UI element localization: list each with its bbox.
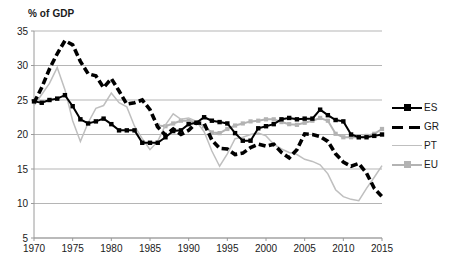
legend-label-eu: EU bbox=[424, 160, 438, 170]
legend-key-eu-icon bbox=[392, 158, 422, 172]
legend-key-pt-icon bbox=[392, 139, 422, 153]
plot-area: 5101520253035 19701975198019851990199520… bbox=[0, 0, 454, 269]
svg-text:5: 5 bbox=[22, 233, 28, 244]
legend-item-pt: PT bbox=[392, 136, 452, 155]
svg-text:2005: 2005 bbox=[294, 243, 317, 254]
series-es bbox=[32, 93, 384, 145]
svg-text:30: 30 bbox=[17, 60, 29, 71]
svg-text:35: 35 bbox=[17, 26, 29, 37]
legend-label-gr: GR bbox=[424, 122, 439, 132]
svg-text:1985: 1985 bbox=[139, 243, 162, 254]
svg-text:20: 20 bbox=[17, 129, 29, 140]
legend-label-es: ES bbox=[424, 103, 437, 113]
svg-text:25: 25 bbox=[17, 95, 29, 106]
legend-key-es-icon bbox=[392, 101, 422, 115]
svg-text:15: 15 bbox=[17, 164, 29, 175]
svg-text:2010: 2010 bbox=[332, 243, 355, 254]
svg-text:2000: 2000 bbox=[255, 243, 278, 254]
svg-text:1975: 1975 bbox=[62, 243, 85, 254]
svg-text:10: 10 bbox=[17, 198, 29, 209]
svg-text:2015: 2015 bbox=[371, 243, 394, 254]
chart-container: % of GDP 5101520253035 19701975198019851… bbox=[0, 0, 454, 269]
svg-text:1995: 1995 bbox=[216, 243, 239, 254]
y-tick-labels: 5101520253035 bbox=[17, 26, 34, 244]
legend-item-eu: EU bbox=[392, 155, 452, 174]
svg-text:1980: 1980 bbox=[100, 243, 123, 254]
x-tick-labels: 1970197519801985199019952000200520102015 bbox=[23, 238, 394, 254]
chart-legend: ES GR PT EU bbox=[392, 98, 452, 174]
legend-item-gr: GR bbox=[392, 117, 452, 136]
svg-text:1970: 1970 bbox=[23, 243, 46, 254]
legend-item-es: ES bbox=[392, 98, 452, 117]
legend-label-pt: PT bbox=[424, 141, 437, 151]
legend-key-gr-icon bbox=[392, 120, 422, 134]
svg-text:1990: 1990 bbox=[178, 243, 201, 254]
